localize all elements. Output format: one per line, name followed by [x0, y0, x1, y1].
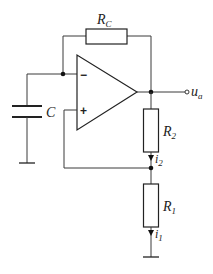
node-divider: [149, 166, 154, 171]
label-c: C: [46, 105, 56, 120]
label-r1: R1: [162, 199, 176, 216]
label-rc: RC: [96, 12, 113, 29]
label-i1: i1: [155, 227, 163, 243]
resistor-r1: [144, 184, 159, 227]
label-output: ua: [191, 84, 203, 101]
inverting-sign: −: [80, 68, 87, 82]
output-terminal: [185, 90, 189, 94]
opamp-triangle: [77, 55, 137, 130]
capacitor-c: [12, 74, 42, 163]
resistor-r2: [144, 109, 159, 152]
resistor-rc: [86, 29, 127, 44]
circuit-diagram: RC C − + ua R2 i2 R1 i1: [0, 0, 213, 274]
node-inverting: [61, 72, 66, 77]
label-r2: R2: [162, 124, 177, 141]
current-arrow-i2-icon: [148, 155, 154, 161]
current-arrow-i1-icon: [148, 230, 154, 236]
noninverting-sign: +: [80, 104, 87, 118]
label-i2: i2: [155, 152, 163, 168]
